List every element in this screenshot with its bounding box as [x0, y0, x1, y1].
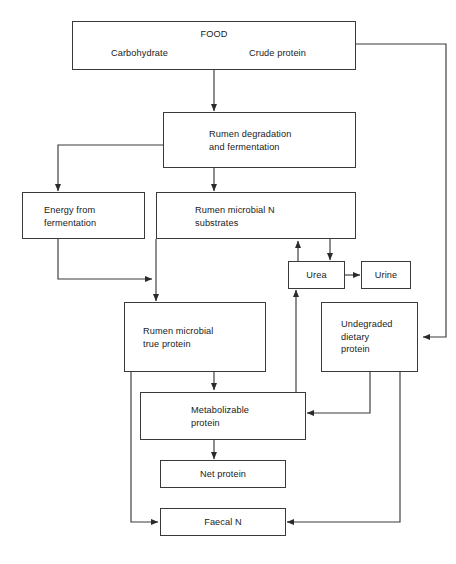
node-energy-from-fermentation: Energy from fermentation [22, 192, 145, 239]
edge-rumen-degradation-to-energy [58, 145, 163, 191]
node-undegraded-dietary-protein: Undegraded dietary protein [321, 302, 418, 372]
node-urea-label: Urea [289, 269, 344, 282]
node-net-protein-label: Net protein [161, 468, 285, 481]
edge-energy-to-microbial-n [58, 239, 152, 279]
node-urine: Urine [361, 261, 411, 289]
node-food-crude-protein: Crude protein [249, 47, 306, 60]
node-net-protein: Net protein [160, 460, 286, 488]
node-rumen-microbial-true-protein-label: Rumen microbial true protein [143, 325, 213, 350]
node-rumen-degradation: Rumen degradation and fermentation [163, 112, 356, 168]
node-food: FOOD Carbohydrate Crude protein [72, 21, 356, 70]
edge-food-to-undegraded-dietary [356, 44, 446, 337]
node-faecal-n: Faecal N [160, 508, 286, 536]
node-metabolizable-protein-label: Metabolizable protein [191, 404, 249, 429]
node-rumen-microbial-n-substrates: Rumen microbial N substrates [156, 192, 356, 239]
node-urea: Urea [288, 261, 345, 289]
node-urine-label: Urine [362, 269, 410, 282]
node-faecal-n-label: Faecal N [161, 516, 285, 529]
diagram-page: FOOD Carbohydrate Crude protein Rumen de… [0, 0, 456, 564]
node-rumen-degradation-label: Rumen degradation and fermentation [209, 128, 291, 153]
node-metabolizable-protein: Metabolizable protein [140, 392, 306, 440]
node-rumen-microbial-n-substrates-label: Rumen microbial N substrates [195, 204, 275, 229]
node-undegraded-dietary-protein-label: Undegraded dietary protein [341, 318, 393, 356]
edge-undegraded-to-metabolizable [307, 372, 370, 413]
node-food-title: FOOD [73, 28, 355, 41]
node-rumen-microbial-true-protein: Rumen microbial true protein [124, 302, 266, 372]
node-energy-from-fermentation-label: Energy from fermentation [44, 204, 96, 229]
node-food-carbohydrate: Carbohydrate [111, 47, 168, 60]
